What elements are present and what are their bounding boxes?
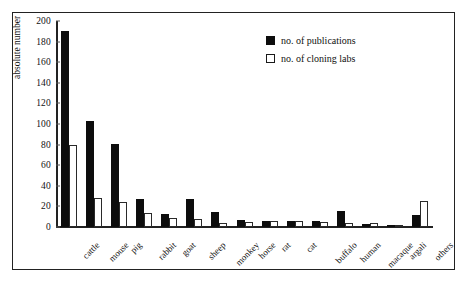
x-tick-label: goat: [180, 240, 198, 258]
bar-cloning-labs: [420, 201, 428, 227]
bar-group: [85, 21, 103, 227]
y-tick-label: 180: [36, 37, 56, 47]
x-tick-label: others: [433, 240, 456, 263]
bar-publications: [161, 214, 169, 227]
bar-publications: [86, 121, 94, 227]
x-tick-label: sheep: [206, 240, 228, 262]
bar-cloning-labs: [395, 225, 403, 227]
bar-group: [110, 21, 128, 227]
y-tick-label: 40: [41, 181, 56, 191]
bar-group: [160, 21, 178, 227]
legend-swatch-open-square-icon: [266, 54, 275, 63]
chart-figure: absolute number 020406080100120140160180…: [12, 12, 455, 270]
x-tick-label: rabbit: [156, 240, 178, 262]
y-tick-label: 120: [36, 98, 56, 108]
bar-publications: [136, 199, 144, 227]
y-tick-label: 80: [41, 140, 56, 150]
x-tick-label: pig: [128, 240, 143, 255]
y-tick-label: 100: [36, 119, 56, 129]
y-tick-label: 160: [36, 57, 56, 67]
bar-publications: [337, 211, 345, 227]
bar-cloning-labs: [119, 202, 127, 227]
bar-cloning-labs: [69, 145, 77, 227]
bar-group: [185, 21, 203, 227]
bar-cloning-labs: [270, 221, 278, 227]
chart-legend: no. of publications no. of cloning labs: [266, 33, 356, 69]
legend-label-cloning-labs: no. of cloning labs: [281, 51, 355, 66]
x-tick-label: cat: [304, 240, 318, 254]
bar-group: [411, 21, 429, 227]
legend-label-publications: no. of publications: [281, 33, 356, 48]
y-tick-label: 20: [41, 201, 56, 211]
bar-cloning-labs: [219, 223, 227, 227]
y-axis-title: absolute number: [12, 16, 22, 79]
y-tick-label: 200: [36, 16, 56, 26]
bar-publications: [312, 221, 320, 227]
bar-publications: [111, 144, 119, 227]
x-tick-label: buffalo: [333, 240, 358, 265]
bar-cloning-labs: [245, 222, 253, 227]
legend-item-publications: no. of publications: [266, 33, 356, 48]
x-tick-label: mouse: [107, 240, 131, 264]
bar-group: [210, 21, 228, 227]
bar-cloning-labs: [169, 218, 177, 227]
bar-cloning-labs: [94, 198, 102, 227]
bar-publications: [262, 221, 270, 227]
bar-publications: [387, 225, 395, 227]
bar-publications: [362, 224, 370, 227]
y-tick-label: 60: [41, 160, 56, 170]
bar-group: [60, 21, 78, 227]
x-tick-label: horse: [256, 240, 277, 261]
x-tick-label: cattle: [80, 240, 101, 261]
bar-publications: [186, 199, 194, 227]
bar-publications: [211, 212, 219, 227]
bar-publications: [237, 220, 245, 227]
bar-cloning-labs: [345, 223, 353, 227]
plot-area: 020406080100120140160180200 cattlemousep…: [56, 21, 433, 227]
bar-cloning-labs: [144, 213, 152, 227]
legend-item-cloning-labs: no. of cloning labs: [266, 51, 356, 66]
bar-cloning-labs: [320, 222, 328, 227]
bar-publications: [287, 221, 295, 227]
y-tick-label: 0: [46, 222, 56, 232]
legend-swatch-filled-square-icon: [266, 36, 275, 45]
bar-publications: [61, 31, 69, 227]
x-tick-label: rat: [278, 240, 292, 254]
bar-group: [361, 21, 379, 227]
bar-cloning-labs: [194, 219, 202, 227]
x-tick-label: human: [358, 240, 382, 264]
bar-publications: [412, 215, 420, 227]
bar-group: [135, 21, 153, 227]
y-tick-label: 140: [36, 78, 56, 88]
bar-cloning-labs: [295, 221, 303, 227]
bar-cloning-labs: [370, 223, 378, 227]
bar-group: [386, 21, 404, 227]
bar-group: [236, 21, 254, 227]
